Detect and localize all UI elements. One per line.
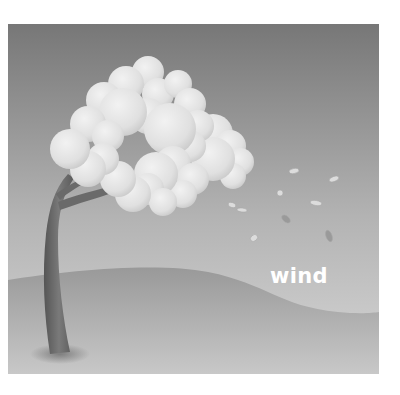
leaf-icon <box>277 190 283 196</box>
wind-illustration: wind <box>8 24 379 374</box>
scene-svg <box>8 24 379 374</box>
wind-caption: wind <box>270 264 328 288</box>
